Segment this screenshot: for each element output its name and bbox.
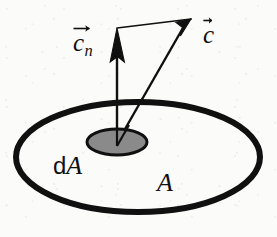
label-normal-vector: cn — [73, 30, 92, 55]
diagram-canvas — [0, 0, 277, 237]
velocity-arrow — [117, 19, 191, 143]
label-area: A — [157, 170, 173, 196]
normal-vector-symbol: c — [73, 30, 84, 55]
velocity-arrow-shaft — [117, 27, 184, 143]
normal-component-arrow — [110, 28, 124, 143]
velocity-vector-symbol: c — [203, 22, 214, 47]
area-element-symbol: A — [66, 151, 82, 180]
area-element-prefix: d — [53, 152, 66, 179]
label-velocity-vector: c — [203, 22, 214, 47]
vector-arrow-overbar-icon — [73, 25, 92, 32]
vector-arrow-overbar-icon — [203, 17, 214, 24]
vector-area-diagram: cn c dA A — [0, 0, 277, 237]
normal-arrow-head — [110, 28, 124, 62]
normal-vector-subscript: n — [84, 43, 92, 60]
velocity-arrow-head — [176, 19, 191, 36]
label-area-element: dA — [53, 153, 82, 179]
